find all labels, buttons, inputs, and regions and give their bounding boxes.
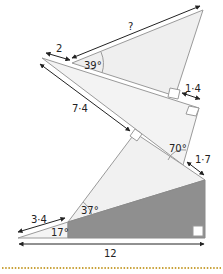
label-top-hyp: ? (128, 21, 133, 32)
label-mid-hyp: 7·4 (72, 103, 88, 114)
label-angle-37: 37° (81, 205, 99, 216)
label-right-seg-top: 1·4 (185, 83, 201, 94)
geometry-diagram: ? 2 39° 1·4 7·4 70° 1·7 37° 3·4 17° 12 (0, 0, 223, 274)
label-angle-17: 17° (51, 227, 69, 238)
label-base: 12 (104, 248, 117, 259)
label-bottom-seg: 3·4 (31, 214, 47, 225)
arrow-top-left-seg (46, 53, 70, 60)
label-top-left-seg: 2 (56, 43, 62, 54)
right-angle-marker (186, 106, 199, 116)
right-angle-marker (168, 88, 180, 99)
right-angle-marker (193, 226, 203, 236)
label-right-seg-mid: 1·7 (195, 154, 211, 165)
label-angle-39: 39° (84, 60, 102, 71)
label-angle-70: 70° (169, 143, 187, 154)
